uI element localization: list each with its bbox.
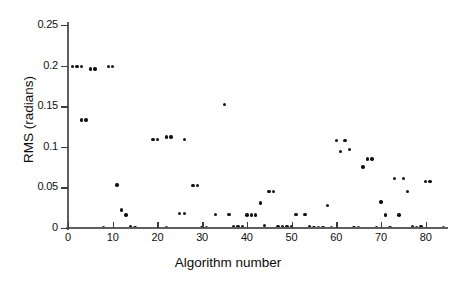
data-point: [183, 212, 186, 215]
data-point: [178, 212, 181, 215]
data-point: [196, 184, 199, 187]
data-point: [393, 177, 396, 180]
data-point: [250, 213, 253, 216]
y-axis-tick: [61, 66, 68, 67]
y-axis-line: [67, 22, 69, 230]
y-axis-tick: [61, 106, 68, 107]
data-point: [227, 213, 230, 216]
data-point: [156, 138, 159, 141]
data-point: [402, 177, 405, 180]
data-point: [335, 139, 338, 142]
y-axis-tick: [61, 25, 68, 26]
x-axis-line: [66, 227, 448, 229]
x-axis-tick-label: 80: [411, 231, 441, 243]
x-axis-tick: [247, 222, 248, 228]
data-point: [183, 138, 186, 141]
x-axis-tick-label: 20: [142, 231, 172, 243]
data-point: [115, 183, 118, 186]
x-axis-tick: [157, 222, 158, 228]
y-axis-tick: [61, 228, 68, 229]
data-point: [272, 190, 275, 193]
scatter-chart-figure: Algorithm number RMS (radians) 00.050.10…: [0, 0, 456, 284]
plot-area: [68, 25, 448, 228]
data-point: [370, 157, 373, 160]
x-axis-tick-label: 40: [232, 231, 262, 243]
y-axis-tick: [61, 187, 68, 188]
data-point: [71, 65, 74, 68]
data-point: [93, 67, 96, 70]
data-point: [303, 213, 306, 216]
data-point: [397, 213, 400, 216]
data-point: [366, 157, 369, 160]
data-point: [294, 213, 297, 216]
data-point: [120, 208, 123, 211]
data-point: [107, 65, 110, 68]
data-point: [326, 204, 329, 207]
data-point: [267, 190, 270, 193]
data-point: [428, 180, 431, 183]
y-axis-tick-label: 0.25: [37, 18, 58, 30]
data-point: [80, 65, 83, 68]
data-point: [165, 135, 168, 138]
x-axis-tick: [381, 222, 382, 228]
data-point: [424, 180, 427, 183]
x-axis-tick-label: 10: [98, 231, 128, 243]
y-axis-tick: [61, 147, 68, 148]
x-axis-tick-label: 60: [321, 231, 351, 243]
data-point: [84, 118, 87, 121]
data-point: [124, 213, 127, 216]
y-axis-tick-label: 0.15: [37, 99, 58, 111]
data-point: [254, 213, 257, 216]
x-axis-tick: [113, 222, 114, 228]
x-axis-tick-label: 0: [53, 231, 83, 243]
y-axis-title: RMS (radians): [21, 30, 36, 210]
data-point: [348, 148, 351, 151]
x-axis-tick: [292, 222, 293, 228]
data-point: [191, 184, 194, 187]
y-axis-tick-label: 0.2: [43, 59, 58, 71]
x-axis-tick: [202, 222, 203, 228]
data-point: [169, 135, 172, 138]
data-point: [214, 213, 217, 216]
y-axis-tick-label: 0.05: [37, 180, 58, 192]
data-point: [245, 213, 248, 216]
x-axis-tick: [68, 222, 69, 228]
x-axis-tick-label: 70: [366, 231, 396, 243]
x-axis-tick: [336, 222, 337, 228]
data-point: [223, 103, 226, 106]
y-axis-tick-label: 0.1: [43, 140, 58, 152]
data-point: [339, 150, 342, 153]
data-point: [361, 165, 364, 168]
data-point: [343, 139, 346, 142]
data-point: [80, 118, 83, 121]
x-axis-tick: [426, 222, 427, 228]
x-axis-title: Algorithm number: [0, 255, 456, 270]
data-point: [384, 213, 387, 216]
data-point: [259, 201, 262, 204]
data-point: [379, 200, 382, 203]
x-axis-tick-label: 30: [187, 231, 217, 243]
x-axis-tick-label: 50: [277, 231, 307, 243]
data-point: [406, 190, 409, 193]
data-point: [151, 138, 154, 141]
data-point: [75, 65, 78, 68]
data-point: [89, 67, 92, 70]
data-point: [111, 65, 114, 68]
